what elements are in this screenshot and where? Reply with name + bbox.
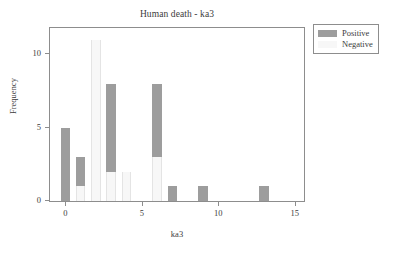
y-axis-tick: 10 bbox=[45, 53, 50, 54]
y-axis-tick-label: 0 bbox=[37, 195, 41, 205]
bar-segment-positive bbox=[76, 157, 85, 186]
y-axis-tick-label: 5 bbox=[37, 122, 41, 132]
bar-segment-negative bbox=[122, 172, 131, 201]
x-axis-title: ka3 bbox=[49, 229, 305, 239]
bar-stack bbox=[91, 40, 100, 201]
bar-stack bbox=[76, 157, 85, 201]
bar-segment-positive bbox=[61, 128, 70, 201]
bar-stack bbox=[198, 186, 207, 201]
bar-stack bbox=[122, 172, 131, 201]
x-axis-tick-label: 15 bbox=[291, 208, 300, 218]
bar-segment-negative bbox=[91, 40, 100, 201]
bar-stack bbox=[168, 186, 177, 201]
y-axis-title: Frequency bbox=[8, 78, 18, 114]
legend-swatch-icon bbox=[318, 30, 337, 37]
bar-segment-positive bbox=[106, 84, 115, 172]
chart-legend: PositiveNegative bbox=[313, 24, 379, 54]
bar-stack bbox=[152, 84, 161, 201]
bar-segment-positive bbox=[259, 186, 268, 201]
bar-segment-negative bbox=[152, 157, 161, 201]
legend-item-label: Negative bbox=[342, 39, 373, 50]
bar-segment-negative bbox=[106, 172, 115, 201]
chart-title: Human death - ka3 bbox=[49, 9, 305, 19]
x-axis-tick-label: 5 bbox=[140, 208, 144, 218]
y-axis-tick: 5 bbox=[45, 127, 50, 128]
bar-segment-positive bbox=[152, 84, 161, 157]
plot-frame: 0510051015 bbox=[49, 27, 305, 202]
bar-stack bbox=[106, 84, 115, 201]
x-axis-tick bbox=[218, 201, 219, 206]
x-axis-tick bbox=[65, 201, 66, 206]
legend-item-positive[interactable]: Positive bbox=[318, 28, 373, 39]
bar-segment-positive bbox=[168, 186, 177, 201]
x-axis-tick-label: 10 bbox=[214, 208, 223, 218]
bar-stack bbox=[61, 128, 70, 201]
x-axis-tick bbox=[295, 201, 296, 206]
x-axis-tick bbox=[142, 201, 143, 206]
y-axis-tick: 0 bbox=[45, 200, 50, 201]
bar-segment-negative bbox=[76, 186, 85, 201]
bar-segment-positive bbox=[198, 186, 207, 201]
legend-item-negative[interactable]: Negative bbox=[318, 39, 373, 50]
legend-swatch-icon bbox=[318, 41, 337, 48]
y-axis-tick-label: 10 bbox=[33, 48, 42, 58]
chart-figure: Human death - ka3 Frequency 0510051015 k… bbox=[0, 0, 401, 255]
x-axis-tick-label: 0 bbox=[63, 208, 67, 218]
legend-item-label: Positive bbox=[342, 28, 369, 39]
plot-area bbox=[50, 28, 304, 201]
bar-stack bbox=[259, 186, 268, 201]
